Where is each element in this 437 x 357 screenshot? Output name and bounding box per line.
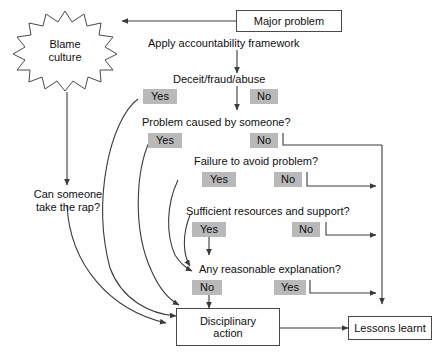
arrow-failure-no-to-spine [307, 172, 376, 186]
arrow-resources-no-to-spine [326, 222, 376, 235]
disciplinary-line1: Disciplinary [200, 315, 256, 327]
label-deceit-fraud-abuse: Deceit/fraud/abuse [173, 73, 265, 86]
node-disciplinary-action[interactable]: Disciplinary action [176, 308, 280, 346]
arrow-caused-no-to-spine [283, 133, 382, 145]
flowchart-canvas: Blame culture Major problem Apply accoun… [0, 0, 437, 357]
badge-caused-no[interactable]: No [250, 133, 278, 148]
badge-explanation-yes[interactable]: Yes [274, 280, 306, 295]
arrow-caused-yes-to-disciplinary [138, 140, 179, 305]
badge-explanation-no[interactable]: No [192, 280, 222, 295]
node-major-problem[interactable]: Major problem [236, 10, 342, 32]
disciplinary-line2: action [213, 327, 242, 339]
label-reasonable-explanation: Any reasonable explanation? [199, 263, 341, 276]
label-failure-to-avoid: Failure to avoid problem? [194, 155, 318, 168]
badge-resources-yes[interactable]: Yes [192, 222, 226, 237]
arrow-explanation-yes-to-spine [310, 280, 376, 293]
badge-failure-yes[interactable]: Yes [202, 172, 236, 187]
blame-culture-label: Blame culture [10, 38, 120, 64]
node-lessons-learnt[interactable]: Lessons learnt [348, 316, 432, 340]
badge-deceit-yes[interactable]: Yes [143, 89, 177, 104]
label-can-someone-take-the-rap: Can someone take the rap? [22, 188, 114, 214]
label-sufficient-resources: Sufficient resources and support? [186, 205, 350, 218]
badge-deceit-no[interactable]: No [250, 89, 278, 104]
arrow-failure-yes-to-explanation [169, 180, 192, 271]
arrow-secondary-into-explanation [184, 215, 190, 266]
major-problem-label: Major problem [254, 15, 324, 27]
badge-caused-yes[interactable]: Yes [148, 133, 182, 148]
label-problem-caused: Problem caused by someone? [142, 116, 291, 129]
arrow-take-rap-to-disciplinary [67, 205, 166, 323]
label-apply-framework: Apply accountability framework [148, 37, 300, 50]
lessons-learnt-label: Lessons learnt [354, 322, 426, 334]
badge-failure-no[interactable]: No [274, 172, 302, 187]
badge-resources-no[interactable]: No [292, 222, 320, 237]
